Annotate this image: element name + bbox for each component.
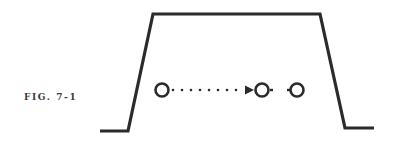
diagram-canvas: [0, 0, 398, 144]
circle-start: [156, 84, 169, 97]
figure-caption: FIG. 7-1: [24, 92, 77, 102]
trapezoid-outline: [100, 14, 374, 131]
circle-middle: [256, 84, 269, 97]
figure: FIG. 7-1: [0, 0, 398, 144]
tick-mark: [270, 89, 273, 91]
circle-end: [291, 84, 304, 97]
arrowhead-icon: [245, 86, 254, 95]
dotted-arrow: [172, 86, 254, 95]
